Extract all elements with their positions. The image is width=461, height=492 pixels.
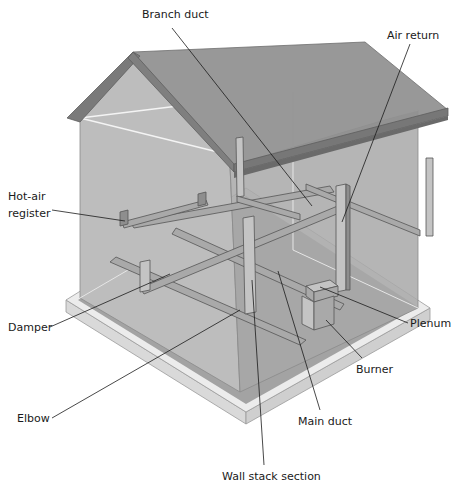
label-wall-stack-section: Wall stack section	[222, 470, 321, 483]
label-air-return: Air return	[387, 29, 439, 42]
label-burner: Burner	[356, 363, 394, 376]
label-hot-air-register-line1: Hot-air	[8, 190, 46, 203]
label-damper: Damper	[8, 321, 53, 334]
label-main-duct: Main duct	[298, 415, 353, 428]
label-plenum: Plenum	[410, 317, 451, 330]
label-branch-duct: Branch duct	[142, 8, 209, 21]
label-hot-air-register-line2: register	[8, 207, 51, 220]
heating-duct-diagram: Branch duct Air return Hot-air register …	[0, 0, 461, 492]
label-elbow: Elbow	[17, 412, 50, 425]
